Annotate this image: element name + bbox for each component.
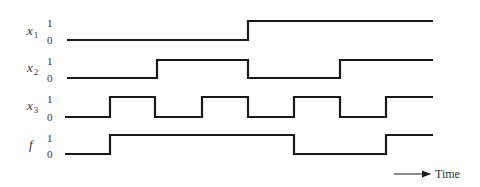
waveform-x1 [67,21,433,40]
waveform-f [65,135,433,154]
level-low-label: 0 [47,72,53,84]
signal-x3: x3 1 0 [26,93,433,123]
signal-x1: x1 1 0 [26,17,433,46]
signal-label-x3: x3 [26,98,39,115]
signal-label-f: f [29,137,35,152]
waveform-x2 [67,60,433,78]
time-label: Time [435,167,460,181]
waveform-x3 [65,97,433,117]
level-low-label: 0 [47,148,53,160]
signal-label-x1: x1 [26,23,38,40]
time-axis: Time [394,167,460,181]
level-low-label: 0 [47,34,53,46]
level-high-label: 1 [47,55,53,67]
level-high-label: 1 [47,93,53,105]
signal-x2: x2 1 0 [26,55,433,84]
signal-label-x2: x2 [26,60,38,77]
level-high-label: 1 [47,17,53,29]
timing-diagram: x1 1 0 x2 1 0 x3 1 0 f 1 0 Time [0,0,480,187]
level-high-label: 1 [47,132,53,144]
level-low-label: 0 [47,111,53,123]
signal-f: f 1 0 [29,132,433,160]
